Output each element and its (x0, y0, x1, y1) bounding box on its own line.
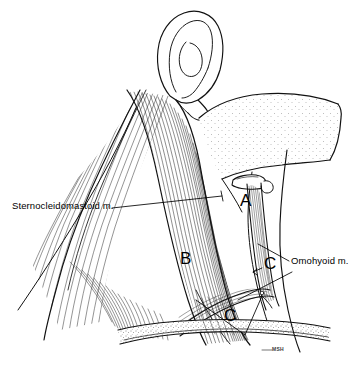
artist-signature: MSH (272, 347, 284, 352)
mandible (190, 88, 350, 330)
label-region-c-upper: C (264, 255, 276, 272)
hyoid-bone (232, 175, 273, 193)
trapezius-muscle (18, 90, 168, 340)
label-region-b: B (180, 250, 191, 267)
label-omohyoid: Omohyoid m. (291, 256, 349, 266)
anatomy-illustration (0, 0, 364, 368)
label-region-a: A (240, 192, 251, 209)
anatomical-figure: Sternocleidomastoid m. Omohyoid m. A B C… (0, 0, 364, 368)
label-sternocleidomastoid: Sternocleidomastoid m. (12, 201, 113, 211)
label-region-c-lower: C (224, 307, 236, 324)
